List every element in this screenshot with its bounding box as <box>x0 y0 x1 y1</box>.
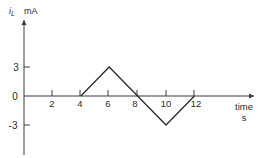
y-tick-label-3: 3 <box>13 62 19 73</box>
x-tick-label-4: 4 <box>77 98 82 109</box>
x-tick-label-10: 10 <box>161 98 172 109</box>
x-tick-label-6: 6 <box>105 98 110 109</box>
y-tick-label-neg3: -3 <box>9 120 18 131</box>
x-axis-unit: s <box>242 112 247 123</box>
x-tick-label-12: 12 <box>191 98 202 109</box>
x-tick-label-2: 2 <box>49 98 54 109</box>
y-axis-unit: mA <box>24 6 38 16</box>
y-tick-label-0: 0 <box>12 91 18 102</box>
x-axis-label: time <box>235 101 253 112</box>
y-axis-label: iL <box>9 6 15 17</box>
x-ticks <box>52 90 194 96</box>
x-tick-label-8: 8 <box>132 98 137 109</box>
y-axis-label-sub: L <box>11 10 15 17</box>
current-time-chart: 3 0 -3 2 4 6 8 10 12 iL mA time s <box>0 0 259 158</box>
